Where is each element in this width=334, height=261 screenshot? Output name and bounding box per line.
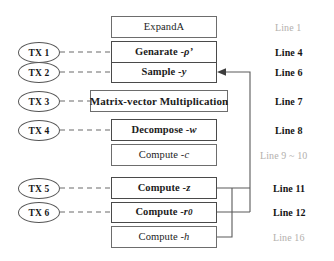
node-compute-c-label: Compute - — [139, 150, 185, 161]
line-label-line-1: Line 1 — [275, 22, 301, 33]
line-label-line-4: Line 4 — [275, 47, 303, 58]
node-expanda-label: ExpandA — [144, 22, 184, 33]
node-compute-r0[interactable]: Compute - r0 — [111, 202, 217, 223]
node-sample[interactable]: Sample - y — [111, 62, 217, 83]
tx3-label: TX 3 — [28, 97, 49, 107]
node-compute-r0-subscript: 0 — [188, 208, 193, 217]
node-compute-z-symbol: z — [186, 183, 190, 194]
node-sample-label: Sample - — [142, 67, 182, 78]
node-matmul-label: Matrix-vector Multiplication — [90, 96, 229, 107]
tx4-label: TX 4 — [28, 126, 49, 136]
node-compute-h[interactable]: Compute - h — [111, 226, 217, 248]
node-matrix-vector-multiplication[interactable]: Matrix-vector Multiplication — [90, 90, 228, 112]
tx6-label: TX 6 — [28, 208, 49, 218]
line-label-line-7: Line 7 — [275, 96, 303, 107]
node-sample-symbol: y — [182, 67, 187, 78]
feedback-rail — [225, 72, 250, 212]
line-label-line-9-10: Line 9 ~ 10 — [260, 150, 307, 161]
node-compute-h-label: Compute - — [139, 232, 185, 243]
node-compute-z-label: Compute - — [138, 183, 186, 194]
node-generate[interactable]: Genarate - ρ’ — [111, 41, 217, 63]
feedback-arrowhead — [217, 68, 226, 76]
node-expanda[interactable]: ExpandA — [111, 16, 217, 38]
node-compute-h-symbol: h — [184, 232, 189, 243]
tx-node-tx2[interactable]: TX 2 — [18, 62, 60, 83]
flow-diagram: ExpandA Genarate - ρ’ Sample - y Matrix-… — [0, 0, 334, 261]
tx-node-tx1[interactable]: TX 1 — [18, 42, 60, 63]
feedback-from-computeh — [217, 188, 232, 237]
tx-node-tx4[interactable]: TX 4 — [18, 120, 60, 141]
tx-node-tx6[interactable]: TX 6 — [18, 202, 60, 223]
node-generate-label: Genarate - — [135, 47, 184, 58]
node-decompose[interactable]: Decompose - w — [111, 119, 217, 141]
tx1-label: TX 1 — [28, 48, 49, 58]
tx5-label: TX 5 — [28, 184, 49, 194]
line-label-line-8: Line 8 — [275, 125, 303, 136]
tx-node-tx5[interactable]: TX 5 — [18, 178, 60, 199]
tx-dashed-connectors — [60, 52, 111, 212]
node-compute-c-symbol: c — [184, 150, 189, 161]
node-decompose-symbol: w — [189, 125, 196, 136]
tx-node-tx3[interactable]: TX 3 — [18, 91, 60, 112]
line-label-line-12: Line 12 — [273, 207, 306, 218]
tx2-label: TX 2 — [28, 68, 49, 78]
line-label-line-16: Line 16 — [273, 232, 305, 243]
node-compute-c[interactable]: Compute - c — [111, 144, 217, 166]
node-compute-r0-label: Compute - — [135, 207, 183, 218]
line-label-line-11: Line 11 — [273, 183, 305, 194]
node-generate-symbol: ρ’ — [184, 47, 193, 58]
node-decompose-label: Decompose - — [131, 125, 189, 136]
node-compute-z[interactable]: Compute - z — [111, 177, 217, 199]
line-label-line-6: Line 6 — [275, 67, 303, 78]
